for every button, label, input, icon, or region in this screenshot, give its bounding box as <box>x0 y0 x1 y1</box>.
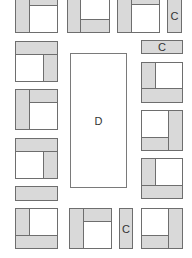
table-label: D <box>71 54 126 187</box>
desk-unit-r3 <box>141 158 183 199</box>
seat-panel <box>83 208 112 222</box>
desk-unit-l1 <box>15 0 58 33</box>
desk-unit-t2 <box>117 0 160 33</box>
seat-panel <box>141 235 169 249</box>
seat-panel <box>80 19 110 33</box>
seat-panel <box>168 110 183 151</box>
seat-panel <box>43 54 58 82</box>
desk-unit-l2 <box>15 41 58 82</box>
seat-panel <box>141 88 183 103</box>
seat-panel <box>15 41 58 55</box>
desk-unit-l6 <box>15 208 58 249</box>
desk-unit-l4 <box>15 138 58 179</box>
seat-panel <box>168 208 183 249</box>
cabinet-label: C <box>168 0 181 32</box>
seat-panel <box>141 137 169 151</box>
seat-panel <box>67 0 81 33</box>
cabinet-label: C <box>120 209 132 248</box>
seat-panel <box>141 185 183 199</box>
desk-unit-r4 <box>141 208 183 249</box>
desk-unit-l3 <box>15 89 58 130</box>
bench-bar <box>15 186 58 201</box>
seat-panel <box>131 0 160 5</box>
cabinet-c-bottom: C <box>119 208 133 249</box>
desk-unit-r1 <box>141 62 183 103</box>
seat-panel <box>15 235 58 249</box>
desk-unit-r2 <box>141 110 183 151</box>
cabinet-label: C <box>142 41 182 53</box>
seat-panel <box>15 138 58 152</box>
cabinet-c-top: C <box>167 0 182 33</box>
desk-unit-b1 <box>69 208 112 249</box>
center-table-d: D <box>70 53 127 188</box>
seat-panel <box>15 89 30 130</box>
seat-panel <box>29 0 58 6</box>
cabinet-c-right-bar: C <box>141 40 183 54</box>
seat-panel <box>43 151 58 179</box>
seat-panel <box>15 0 30 33</box>
seat-panel <box>69 208 84 249</box>
seat-panel <box>117 0 132 33</box>
seat-panel <box>29 89 58 103</box>
desk-unit-t1 <box>67 0 110 33</box>
